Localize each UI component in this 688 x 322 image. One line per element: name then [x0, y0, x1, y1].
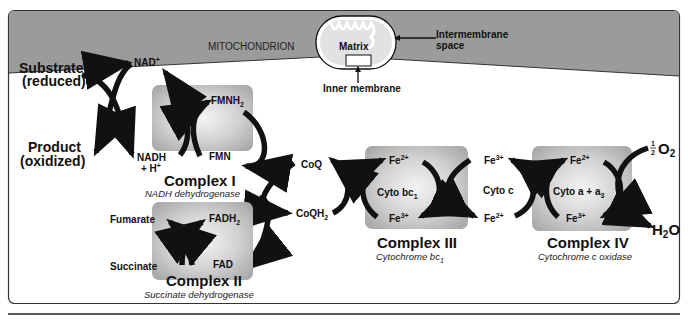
intermembrane-space-label: space [436, 40, 465, 51]
cytoc-center: Cyto c [483, 185, 514, 196]
product-oxidized-label: (oxidized) [20, 153, 85, 169]
complex-i-subtitle: NADH dehydrogenase [145, 188, 240, 199]
o2-fraction-num: 1 [651, 140, 655, 147]
fumarate: Fumarate [110, 214, 155, 225]
mitochondrion-label: MITOCHONDRION [208, 41, 294, 52]
coq: CoQ [301, 159, 322, 170]
complex-ii-box [152, 202, 253, 280]
intermembrane-label: Intermembrane [436, 29, 509, 40]
succinate: Succinate [110, 261, 158, 272]
complex-i-title: Complex I [164, 172, 236, 189]
o2-fraction-den: 2 [651, 149, 655, 156]
complex-ii-subtitle: Succinate dehydrogenase [144, 289, 254, 300]
matrix-label: Matrix [339, 41, 369, 52]
inner-membrane-label: Inner membrane [323, 83, 401, 94]
complex-ii-title: Complex II [166, 272, 242, 289]
complex-iii-title: Complex III [377, 234, 457, 251]
fad: FAD [213, 259, 233, 270]
electron-transport-chain-diagram: Matrix MITOCHONDRION Intermembrane space… [0, 0, 688, 322]
complex-iv-title: Complex IV [547, 234, 629, 251]
substrate-reduced-label: (reduced) [22, 73, 86, 89]
nadh: NADH [137, 152, 166, 163]
fmn: FMN [209, 151, 231, 162]
complex-iv-subtitle: Cytochrome c oxidase [538, 251, 632, 262]
